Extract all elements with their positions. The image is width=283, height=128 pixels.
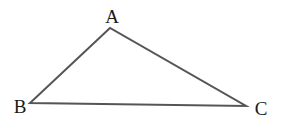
triangle-diagram: A B C xyxy=(0,0,283,128)
vertex-label-b: B xyxy=(14,96,27,117)
triangle-abc xyxy=(30,28,246,106)
vertex-label-a: A xyxy=(105,6,119,27)
vertex-label-c: C xyxy=(255,98,268,119)
